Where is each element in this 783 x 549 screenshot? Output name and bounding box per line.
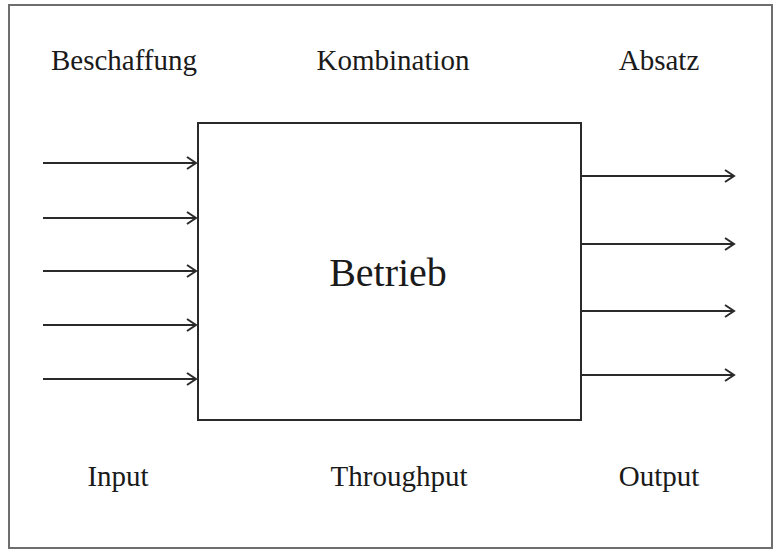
input-arrow-icon: [43, 212, 196, 224]
input-arrows: [43, 157, 196, 385]
output-arrow-icon: [581, 238, 734, 250]
input-arrow-icon: [43, 319, 196, 331]
label-throughput: Throughput: [331, 462, 468, 491]
input-arrow-icon: [43, 373, 196, 385]
output-arrow-icon: [581, 170, 734, 182]
output-arrows: [581, 170, 734, 381]
label-input: Input: [87, 462, 148, 491]
output-arrow-icon: [581, 369, 734, 381]
input-arrow-icon: [43, 157, 196, 169]
input-arrow-icon: [43, 265, 196, 277]
label-output: Output: [619, 462, 700, 491]
output-arrow-icon: [581, 305, 734, 317]
